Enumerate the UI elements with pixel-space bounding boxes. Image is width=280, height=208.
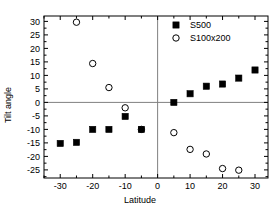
y-tick-label: 30: [30, 17, 40, 27]
y-tick-label: 10: [30, 71, 40, 81]
y-tick-label: 20: [30, 44, 40, 54]
legend-filled-square-icon: [173, 22, 179, 28]
data-point: [122, 113, 128, 119]
x-tick-label: 10: [185, 181, 195, 191]
y-tick-label: -5: [32, 111, 40, 121]
y-tick-label: -20: [27, 152, 40, 162]
y-tick-label: 25: [30, 30, 40, 40]
data-point: [171, 99, 177, 105]
y-tick-label: 15: [30, 57, 40, 67]
scatter-plot: -30-20-100102030 302520151050-5-10-15-20…: [0, 0, 280, 208]
chart-figure: -30-20-100102030 302520151050-5-10-15-20…: [0, 0, 280, 208]
data-point: [252, 67, 258, 73]
data-point: [73, 139, 79, 145]
data-point: [106, 126, 112, 132]
y-tick-label: -15: [27, 138, 40, 148]
x-axis-title: Latitude: [124, 195, 156, 205]
x-tick-label: -20: [86, 181, 99, 191]
y-tick-label: 5: [35, 84, 40, 94]
legend-label: S500: [190, 20, 211, 30]
x-tick-label: -30: [54, 181, 67, 191]
y-axis-title: Tilt angle: [3, 87, 13, 123]
data-point: [219, 81, 225, 87]
data-point: [187, 91, 193, 97]
x-tick-label: 30: [250, 181, 260, 191]
y-tick-label: -10: [27, 125, 40, 135]
data-point: [203, 83, 209, 89]
y-tick-label: -25: [27, 165, 40, 175]
data-point: [57, 140, 63, 146]
x-tick-label: 20: [218, 181, 228, 191]
plot-background: [0, 0, 280, 208]
legend-label: S100x200: [190, 33, 231, 43]
y-tick-label: 0: [35, 98, 40, 108]
x-tick-label: 0: [155, 181, 160, 191]
data-point: [90, 126, 96, 132]
data-point: [236, 75, 242, 81]
x-tick-label: -10: [119, 181, 132, 191]
